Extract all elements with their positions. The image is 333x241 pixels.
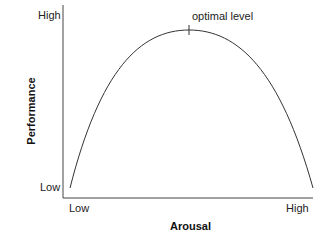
x-tick-high: High xyxy=(286,202,309,214)
y-tick-high: High xyxy=(38,9,61,21)
chart-canvas xyxy=(0,0,333,241)
y-tick-low: Low xyxy=(40,181,60,193)
y-axis-title: Performance xyxy=(25,77,37,144)
performance-curve xyxy=(70,30,313,188)
x-axis-title: Arousal xyxy=(170,220,211,232)
optimal-level-annotation: optimal level xyxy=(192,10,253,22)
x-tick-low: Low xyxy=(69,202,89,214)
